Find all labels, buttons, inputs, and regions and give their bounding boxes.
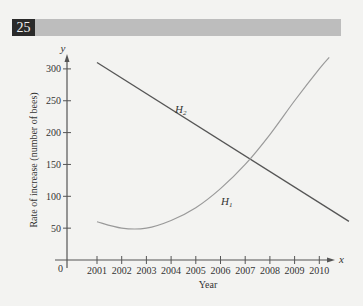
x-axis-title: Year (199, 279, 218, 290)
x-axis-arrow-icon (327, 258, 335, 263)
chart: yx05010015020025030020012002200320042005… (0, 0, 363, 306)
axes (55, 54, 335, 268)
y-axis-title: Rate of increase (number of bees) (28, 92, 40, 227)
curve-h1 (97, 57, 329, 229)
x-tick-label: 2009 (285, 265, 305, 276)
x-tick-label: 2001 (87, 265, 107, 276)
x-axis-letter: x (338, 253, 344, 265)
y-tick-label: 200 (46, 127, 61, 138)
label-h2: H2 (174, 103, 187, 117)
y-tick-label: 100 (46, 191, 61, 202)
x-tick-label: 2004 (161, 265, 181, 276)
origin-label: 0 (58, 263, 63, 274)
y-axis-arrow-icon (65, 54, 70, 62)
x-tick-label: 2007 (235, 265, 255, 276)
x-tick-label: 2005 (186, 265, 206, 276)
y-tick-label: 300 (46, 63, 61, 74)
y-tick-label: 150 (46, 159, 61, 170)
x-tick-label: 2010 (309, 265, 329, 276)
y-tick-label: 50 (51, 223, 61, 234)
y-axis-letter: y (60, 42, 66, 54)
y-tick-label: 250 (46, 95, 61, 106)
x-tick-label: 2003 (136, 265, 156, 276)
label-h1: H1 (220, 195, 232, 209)
x-tick-label: 2006 (211, 265, 231, 276)
x-tick-label: 2002 (112, 265, 132, 276)
axis-labels: yx05010015020025030020012002200320042005… (28, 42, 344, 290)
x-tick-label: 2008 (260, 265, 280, 276)
